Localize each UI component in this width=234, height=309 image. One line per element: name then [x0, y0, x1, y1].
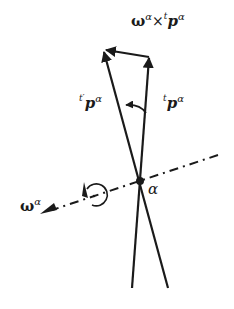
- pivot-label: α: [148, 180, 158, 198]
- rotation-arrowhead-icon: [82, 182, 88, 198]
- rotated-vector-label: t′pα: [79, 93, 102, 112]
- axis-label: ωα: [20, 196, 41, 215]
- original-vector-label: tpα: [163, 93, 184, 112]
- cross-product-label: ωα×tpα: [131, 11, 185, 30]
- cross-product-vector: [106, 50, 149, 57]
- original-vector: [132, 58, 149, 288]
- angle-arc: [126, 105, 146, 113]
- axis-arrow-icon: [40, 203, 57, 214]
- rotated-vector: [104, 52, 168, 288]
- pivot-point: [136, 177, 144, 185]
- rotation-diagram: ωα×tpα t′pα tpα ωα α: [0, 0, 234, 309]
